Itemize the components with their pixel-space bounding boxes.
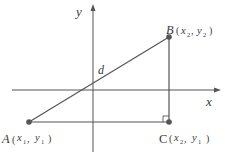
point-b-label: B ( x 2 , y 2 ) — [166, 23, 212, 38]
point-a-dot — [26, 119, 32, 125]
svg-text:1: 1 — [23, 138, 26, 145]
svg-text:2: 2 — [187, 31, 190, 38]
x-axis-label: x — [205, 94, 212, 109]
svg-text:): ) — [209, 25, 212, 37]
svg-text:C: C — [159, 132, 167, 146]
svg-text:2: 2 — [180, 138, 183, 145]
svg-text:,: , — [27, 133, 30, 144]
svg-text:x: x — [180, 25, 186, 36]
svg-text:(: ( — [169, 133, 173, 145]
point-c-dot — [166, 119, 172, 125]
segment-ab-hypotenuse — [29, 37, 169, 122]
distance-diagram: y x d B ( x 2 , y 2 ) A ( x 1 , y 1 ) C … — [0, 0, 225, 154]
svg-text:1: 1 — [41, 138, 44, 145]
x-axis — [12, 88, 221, 93]
svg-text:): ) — [206, 133, 209, 145]
x-axis-arrow-icon — [214, 88, 221, 93]
y-axis-arrow-icon — [91, 4, 96, 11]
y-axis — [91, 4, 96, 152]
point-a-label: A ( x 1 , y 1 ) — [1, 132, 51, 146]
svg-text:x: x — [16, 132, 22, 143]
svg-text:y: y — [196, 25, 202, 36]
svg-text:y: y — [191, 132, 197, 143]
svg-text:1: 1 — [198, 138, 201, 145]
svg-text:B: B — [166, 23, 174, 37]
distance-label: d — [98, 63, 105, 77]
svg-text:A: A — [1, 132, 10, 146]
svg-text:2: 2 — [203, 31, 206, 38]
svg-text:,: , — [184, 133, 187, 144]
point-c-label: C ( x 2 , y 1 ) — [159, 132, 209, 146]
svg-text:y: y — [34, 132, 40, 143]
svg-text:): ) — [48, 133, 51, 145]
svg-text:x: x — [173, 132, 179, 143]
svg-text:,: , — [191, 25, 194, 36]
svg-text:(: ( — [12, 134, 16, 146]
svg-text:(: ( — [176, 25, 180, 37]
y-axis-label: y — [74, 4, 82, 19]
